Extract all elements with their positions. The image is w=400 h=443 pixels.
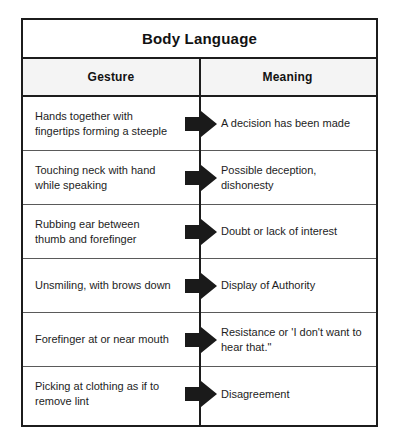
table-row: Touching neck with hand while speaking P… (23, 151, 376, 205)
cell-meaning: Possible deception, dishonesty (199, 151, 376, 204)
table-body: Hands together with fingertips forming a… (23, 97, 376, 421)
cell-gesture: Hands together with fingertips forming a… (23, 97, 199, 150)
column-header-gesture-label: Gesture (88, 70, 135, 84)
cell-meaning: A decision has been made (199, 97, 376, 150)
cell-meaning-text: Display of Authority (221, 278, 315, 293)
table-row: Forefinger at or near mouth Resistance o… (23, 313, 376, 367)
cell-gesture: Rubbing ear between thumb and forefinger (23, 205, 199, 258)
page-title: Body Language (142, 30, 257, 47)
body-language-chart-page: Body Language Gesture Meaning Hands toge… (0, 0, 400, 443)
column-header-meaning: Meaning (199, 59, 376, 95)
cell-meaning-text: Possible deception, dishonesty (221, 163, 366, 193)
cell-gesture-text: Hands together with fingertips forming a… (35, 109, 173, 139)
cell-meaning-text: Disagreement (221, 387, 289, 402)
body-language-table: Body Language Gesture Meaning Hands toge… (21, 18, 378, 427)
cell-gesture-text: Unsmiling, with brows down (35, 278, 171, 293)
cell-meaning: Resistance or 'I don't want to hear that… (199, 313, 376, 366)
cell-gesture: Picking at clothing as if to remove lint (23, 367, 199, 421)
cell-gesture-text: Touching neck with hand while speaking (35, 163, 173, 193)
cell-gesture: Forefinger at or near mouth (23, 313, 199, 366)
column-header-gesture: Gesture (23, 59, 199, 95)
cell-meaning-text: A decision has been made (221, 116, 350, 131)
column-header-meaning-label: Meaning (262, 70, 312, 84)
cell-gesture-text: Rubbing ear between thumb and forefinger (35, 217, 173, 247)
cell-meaning-text: Resistance or 'I don't want to hear that… (221, 325, 366, 355)
table-title-row: Body Language (23, 20, 376, 59)
cell-meaning: Disagreement (199, 367, 376, 421)
table-row: Hands together with fingertips forming a… (23, 97, 376, 151)
table-row: Unsmiling, with brows down Display of Au… (23, 259, 376, 313)
cell-meaning: Display of Authority (199, 259, 376, 312)
cell-meaning-text: Doubt or lack of interest (221, 224, 337, 239)
cell-gesture-text: Forefinger at or near mouth (35, 332, 169, 347)
table-row: Rubbing ear between thumb and forefinger… (23, 205, 376, 259)
table-header-row: Gesture Meaning (23, 59, 376, 97)
cell-meaning: Doubt or lack of interest (199, 205, 376, 258)
cell-gesture-text: Picking at clothing as if to remove lint (35, 379, 173, 409)
table-row: Picking at clothing as if to remove lint… (23, 367, 376, 421)
cell-gesture: Unsmiling, with brows down (23, 259, 199, 312)
cell-gesture: Touching neck with hand while speaking (23, 151, 199, 204)
